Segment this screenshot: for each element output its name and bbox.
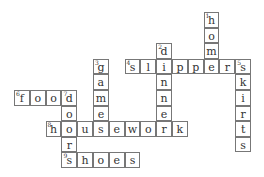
crossword-cell[interactable]: g3 — [93, 59, 109, 75]
cell-letter: r — [67, 139, 72, 152]
cell-letter: o — [66, 123, 73, 136]
crossword-cell[interactable]: a — [93, 74, 109, 90]
cell-letter: s — [130, 61, 136, 74]
cell-letter: e — [161, 108, 168, 121]
cell-letter: n — [161, 92, 168, 105]
cell-letter: h — [82, 154, 89, 167]
crossword-cell[interactable]: h1 — [204, 12, 220, 28]
crossword-cell[interactable]: s — [235, 137, 251, 153]
crossword-cell[interactable]: p — [172, 59, 188, 75]
crossword-cell[interactable]: r — [156, 121, 172, 137]
cell-letter: e — [208, 61, 215, 74]
clue-number: 2 — [158, 43, 162, 50]
crossword-cell[interactable]: t — [235, 121, 251, 137]
cell-letter: m — [206, 45, 216, 58]
clue-number: 9 — [63, 152, 67, 159]
cell-letter: p — [176, 61, 183, 74]
crossword-cell[interactable]: h8 — [46, 121, 62, 137]
cell-letter: n — [161, 76, 168, 89]
cell-letter: r — [161, 123, 166, 136]
crossword-cell[interactable]: w — [125, 121, 141, 137]
crossword-cell[interactable]: r — [219, 59, 235, 75]
cell-letter: s — [240, 61, 246, 74]
crossword-cell[interactable]: o — [204, 28, 220, 44]
crossword-cell[interactable]: e — [204, 59, 220, 75]
crossword-cell[interactable]: e — [109, 121, 125, 137]
crossword-cell[interactable]: e — [156, 106, 172, 122]
crossword-cell[interactable]: h — [77, 152, 93, 168]
clue-number: 5 — [237, 59, 241, 66]
clue-number: 7 — [63, 90, 67, 97]
clue-number: 3 — [95, 59, 99, 66]
cell-letter: i — [162, 61, 166, 74]
crossword-cell[interactable]: u — [77, 121, 93, 137]
clue-number: 6 — [16, 90, 20, 97]
cell-letter: w — [128, 123, 137, 136]
cell-letter: f — [20, 92, 24, 105]
crossword-cell[interactable]: o — [140, 121, 156, 137]
cell-letter: o — [145, 123, 152, 136]
crossword-cell[interactable]: e — [109, 152, 125, 168]
crossword-cell[interactable]: o — [93, 152, 109, 168]
cell-letter: r — [225, 61, 230, 74]
clue-number: 1 — [206, 12, 210, 19]
cell-letter: a — [98, 76, 105, 89]
crossword-cell[interactable]: l — [140, 59, 156, 75]
crossword-cell[interactable]: s5 — [235, 59, 251, 75]
crossword-cell[interactable]: d7 — [61, 90, 77, 106]
crossword-cell[interactable]: r — [61, 137, 77, 153]
cell-letter: i — [241, 92, 245, 105]
crossword-cell[interactable]: s — [93, 121, 109, 137]
crossword-cell[interactable]: k — [235, 74, 251, 90]
crossword-cell[interactable]: n — [156, 74, 172, 90]
cell-letter: p — [192, 61, 199, 74]
cell-letter: o — [66, 108, 73, 121]
crossword-cell[interactable]: d2 — [156, 43, 172, 59]
cell-letter: s — [130, 154, 136, 167]
cell-letter: u — [82, 123, 89, 136]
cell-letter: s — [98, 123, 104, 136]
cell-letter: r — [240, 108, 245, 121]
crossword-grid: h1omed2innerg3ames4lpprs5kirtsf6ood7oors… — [0, 0, 264, 177]
crossword-cell[interactable]: p — [188, 59, 204, 75]
cell-letter: s — [66, 154, 72, 167]
crossword-cell[interactable]: o — [61, 106, 77, 122]
crossword-cell[interactable]: o — [61, 121, 77, 137]
crossword-cell[interactable]: k — [172, 121, 188, 137]
crossword-cell[interactable]: n — [156, 90, 172, 106]
cell-letter: o — [208, 30, 215, 43]
cell-letter: l — [147, 61, 151, 74]
cell-letter: o — [50, 92, 57, 105]
cell-letter: s — [240, 139, 246, 152]
cell-letter: k — [177, 123, 184, 136]
crossword-cell[interactable]: s — [125, 152, 141, 168]
crossword-cell[interactable]: r — [235, 106, 251, 122]
crossword-cell[interactable]: o — [46, 90, 62, 106]
crossword-cell[interactable]: i — [235, 90, 251, 106]
crossword-cell[interactable]: s9 — [61, 152, 77, 168]
cell-letter: e — [113, 123, 120, 136]
clue-number: 8 — [48, 121, 52, 128]
crossword-cell[interactable]: m — [93, 90, 109, 106]
crossword-cell[interactable]: f6 — [14, 90, 30, 106]
cell-letter: m — [96, 92, 106, 105]
cell-letter: k — [240, 76, 247, 89]
crossword-cell[interactable]: i — [156, 59, 172, 75]
clue-number: 4 — [127, 59, 131, 66]
crossword-cell[interactable]: e — [93, 106, 109, 122]
crossword-cell[interactable]: s4 — [125, 59, 141, 75]
cell-letter: e — [113, 154, 120, 167]
cell-letter: e — [98, 108, 105, 121]
crossword-cell[interactable]: m — [204, 43, 220, 59]
crossword-cell[interactable]: o — [30, 90, 46, 106]
cell-letter: o — [98, 154, 105, 167]
cell-letter: t — [241, 123, 245, 136]
cell-letter: o — [34, 92, 41, 105]
